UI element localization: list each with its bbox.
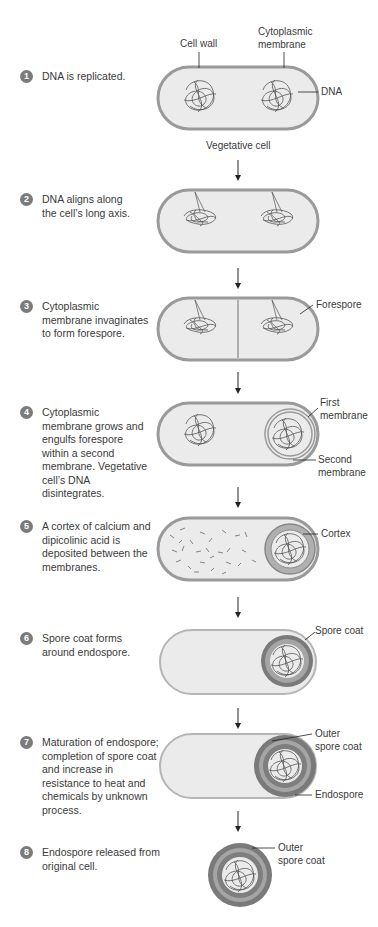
step-text: Spore coat forms around endospore. [42, 632, 142, 659]
label-forespore: Forespore [316, 299, 362, 312]
step-7: 7 Maturation of endospore; completion of… [20, 736, 160, 817]
step-badge: 4 [20, 406, 33, 419]
step-badge: 6 [20, 632, 33, 645]
label-spore-coat: Spore coat [315, 625, 363, 638]
label-outer-spore-coat-8: Outer spore coat [278, 842, 328, 867]
label-outer-spore-coat-7: Outer spore coat [315, 728, 365, 753]
cell-step4 [158, 403, 318, 465]
step-text: Endospore released from original cell. [42, 846, 160, 873]
step-1: 1 DNA is replicated. [20, 70, 140, 84]
label-first-membrane: First membrane [320, 397, 370, 422]
step-text: Cytoplasmic membrane grows and engulfs f… [42, 406, 152, 501]
step-badge: 1 [20, 70, 33, 83]
step-3: 3 Cytoplasmic membrane invaginates to fo… [20, 300, 152, 341]
label-cytoplasmic-membrane: Cytoplasmic membrane [258, 26, 318, 51]
step-2: 2 DNA aligns along the cell’s long axis. [20, 193, 132, 220]
step-4: 4 Cytoplasmic membrane grows and engulfs… [20, 406, 152, 501]
step-5: 5 A cortex of calcium and dipicolinic ac… [20, 520, 152, 574]
step-badge: 3 [20, 300, 33, 313]
step-text: Maturation of endospore; completion of s… [42, 736, 160, 817]
cell-step5 [158, 518, 318, 580]
step-8: 8 Endospore released from original cell. [20, 846, 160, 873]
label-endospore: Endospore [315, 789, 363, 802]
label-second-membrane: Second membrane [318, 454, 373, 479]
cell-step3 [158, 298, 318, 360]
step-badge: 5 [20, 520, 33, 533]
vegetative-cell-step1 [158, 52, 318, 129]
label-cell-wall: Cell wall [180, 38, 217, 51]
step-badge: 8 [20, 846, 33, 859]
label-vegetative-cell: Vegetative cell [206, 140, 271, 153]
cell-step6 [160, 630, 316, 694]
step-text: A cortex of calcium and dipicolinic acid… [42, 520, 152, 574]
label-dna: DNA [321, 86, 342, 99]
label-cortex: Cortex [321, 528, 350, 541]
step-text: Cytoplasmic membrane invaginates to form… [42, 300, 152, 341]
step-6: 6 Spore coat forms around endospore. [20, 632, 142, 659]
cell-step7 [160, 734, 316, 798]
step-text: DNA is replicated. [42, 70, 140, 84]
released-endospore-step8 [208, 843, 275, 907]
step-text: DNA aligns along the cell’s long axis. [42, 193, 132, 220]
cell-step2 [158, 190, 318, 252]
step-badge: 2 [20, 193, 33, 206]
step-badge: 7 [20, 736, 33, 749]
